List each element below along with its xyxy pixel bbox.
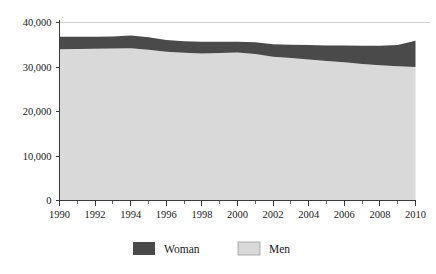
dark-swatch-icon: [133, 242, 155, 255]
x-axis-label: 2008: [369, 209, 390, 220]
x-axis-label: 1992: [85, 209, 106, 220]
stacked-area-chart: 010,00020,00030,00040,000 19901992199419…: [0, 0, 436, 274]
y-axis-label: 40,000: [23, 17, 52, 28]
y-axis-label: 10,000: [23, 151, 52, 162]
x-axis-label: 2010: [405, 209, 426, 220]
chart-canvas: 010,00020,00030,00040,000 19901992199419…: [0, 0, 436, 274]
x-axis-tick-labels: 1990199219941996199820002002200420062008…: [49, 209, 426, 220]
x-axis-label: 2004: [298, 209, 320, 220]
area-series-men: [60, 48, 416, 200]
x-axis-label: 2006: [334, 209, 355, 220]
y-axis-label: 0: [46, 195, 51, 206]
x-axis-label: 1998: [191, 209, 212, 220]
y-axis-label: 30,000: [23, 62, 52, 73]
x-axis-label: 2000: [227, 209, 248, 220]
x-axis-label: 1990: [49, 209, 70, 220]
y-axis-label: 20,000: [23, 106, 52, 117]
light-swatch-icon: [238, 242, 260, 255]
x-axis-label: 1994: [120, 209, 142, 220]
x-axis-label: 1996: [156, 209, 177, 220]
plot-areas: [60, 35, 416, 200]
x-axis-label: 2002: [263, 209, 284, 220]
legend-label-men: Men: [269, 243, 290, 255]
legend-label-woman: Woman: [164, 243, 200, 255]
